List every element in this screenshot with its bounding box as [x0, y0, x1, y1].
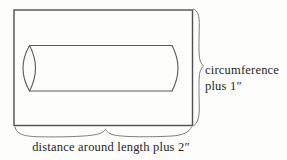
- circumference-label-line2: plus 1″: [205, 79, 242, 93]
- distance-around-label: distance around length plus 2″: [32, 140, 190, 154]
- diagram-background: [0, 0, 287, 160]
- circumference-label-line1: circumference: [205, 63, 279, 77]
- diagram-canvas: circumference plus 1″ distance around le…: [0, 0, 287, 160]
- figure: circumference plus 1″ distance around le…: [0, 0, 287, 160]
